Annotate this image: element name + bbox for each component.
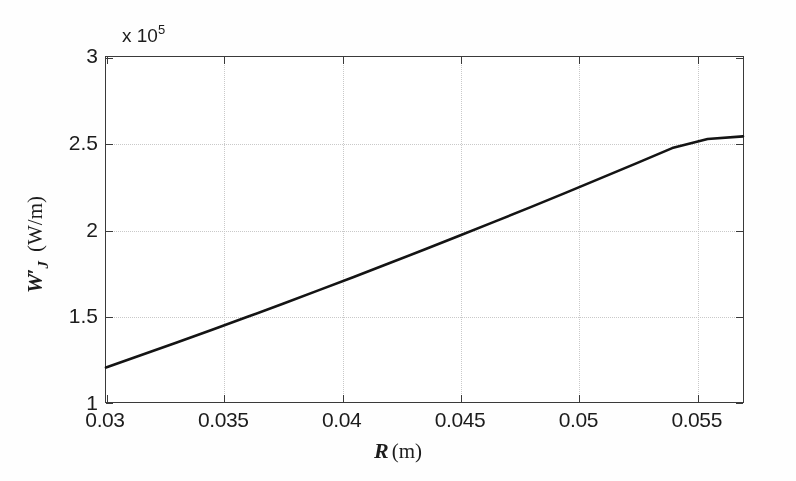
- x-axis-tick-label: 0.035: [198, 408, 249, 432]
- y-axis-title: W′J(W/m): [22, 130, 51, 360]
- series-line-wj: [106, 136, 743, 367]
- x-axis-unit: (m): [392, 439, 422, 463]
- y-axis-tick-mark: [106, 403, 113, 404]
- plot-area: [105, 56, 744, 403]
- y-axis-exponent-label: x 105: [122, 22, 165, 47]
- y-axis-tick-label: 1: [8, 391, 98, 415]
- data-curve-layer: [106, 57, 743, 402]
- x-axis-tick-label: 0.05: [559, 408, 598, 432]
- y-axis-symbol: W: [22, 274, 47, 294]
- y-axis-unit: (W/m): [23, 196, 47, 252]
- figure-canvas: x 105 0.030.0350.040.0450.050.055 11.522…: [0, 0, 796, 481]
- x-axis-symbol: R: [374, 438, 389, 463]
- exponent-power: 5: [158, 22, 165, 37]
- y-axis-subscript: J: [35, 261, 51, 269]
- exponent-prefix: x 10: [122, 25, 158, 46]
- x-axis-tick-label: 0.04: [322, 408, 361, 432]
- x-axis-tick-label: 0.055: [671, 408, 722, 432]
- x-axis-tick-label: 0.045: [435, 408, 486, 432]
- y-axis-tick-mark: [736, 403, 743, 404]
- x-axis-title: R(m): [0, 438, 796, 464]
- y-axis-tick-label: 3: [8, 44, 98, 68]
- y-axis-prime: ′: [22, 268, 47, 274]
